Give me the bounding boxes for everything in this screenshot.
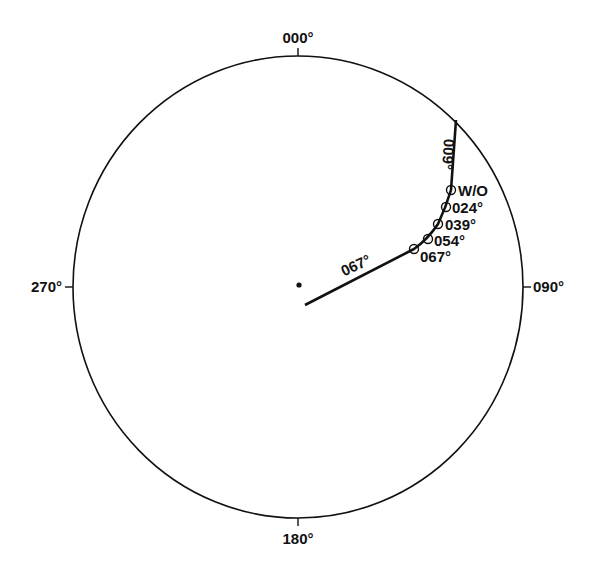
label-north: 000° — [282, 29, 313, 46]
marker-label-067: 067° — [420, 248, 451, 265]
label-west: 270° — [31, 278, 62, 295]
marker-label-054: 054° — [434, 232, 465, 249]
marker-label-wo: W/O — [458, 182, 488, 199]
marker-label-039: 039° — [445, 216, 476, 233]
label-east: 090° — [533, 278, 564, 295]
polar-diagram: 000° 180° 270° 090° 009° 067° W/O 024° 0… — [0, 0, 598, 562]
center-dot — [296, 282, 301, 287]
label-initial-heading: 009° — [439, 138, 458, 170]
marker-label-024: 024° — [452, 199, 483, 216]
label-south: 180° — [282, 530, 313, 547]
label-final-heading: 067° — [338, 251, 373, 280]
track-line — [305, 120, 456, 305]
